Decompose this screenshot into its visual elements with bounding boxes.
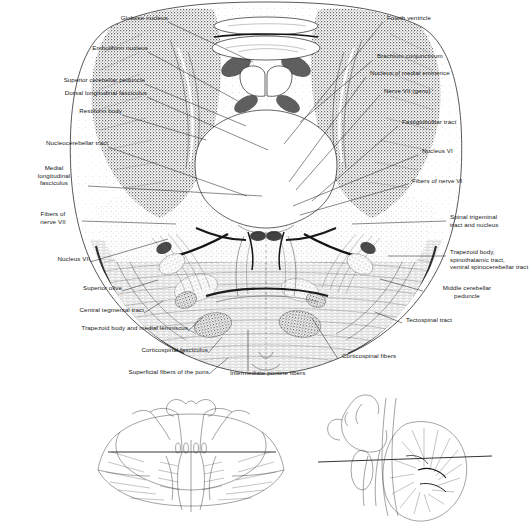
label-fastigiobulbar-tract: Fastigiobulbar tract [402, 118, 502, 126]
label-tectospinal-tract: Tectospinal tract [406, 316, 486, 324]
label-central-tegmental-tract: Central tegmental tract [46, 306, 144, 314]
inset-midsagittal-brainstem [318, 395, 492, 521]
label-nucleocerebellar-tract: Nucleocerebellar tract [10, 139, 108, 147]
anatomical-plate: Globose nucleus Emboliform nucleus Super… [0, 0, 532, 523]
label-spinal-trigeminal-tract-and-nucleus: Spinal trigeminal tract and nucleus [450, 213, 532, 228]
label-restiform-body: Restiform body [52, 107, 122, 115]
label-trapezoid-body-spinothalamic-ventral-spinocerebellar: Trapezoid body, spinothalamic tract, ven… [450, 248, 532, 271]
label-trapezoid-body-and-medial-lemniscus: Trapezoid body and medial lemniscus [38, 324, 188, 332]
inset-dorsal-brainstem [98, 400, 284, 513]
label-nerve-vii-genu: Nerve VII (genu) [384, 87, 480, 95]
label-middle-cerebellar-peduncle: Middle cerebellar peduncle [427, 284, 507, 299]
label-fourth-ventricle: Fourth ventricle [387, 14, 477, 22]
label-corticospinal-fasciculus: Corticospinal fasciculus [110, 346, 208, 354]
label-nucleus-vii: Nucleus VII [36, 255, 90, 263]
label-superior-cerebellar-peduncle: Superior cerebellar peduncle [23, 76, 145, 84]
label-brachium-conjunctivum: Brachium conjunctivum [377, 52, 487, 60]
label-nucleus-of-medial-eminence: Nucleus of medial eminence [370, 69, 498, 77]
label-superior-olive: Superior olive [60, 284, 122, 292]
label-emboliform-nucleus: Emboliform nucleus [38, 44, 148, 52]
label-corticospinal-fibers: Corticospinal fibers [342, 352, 432, 360]
label-medial-longitudinal-fasciculus: Medial longitudinal fasciculus [20, 164, 88, 187]
label-nucleus-vi: Nucleus VI [422, 147, 488, 155]
label-dorsal-longitudinal-fasciculus: Dorsal longitudinal fasciculus [25, 89, 147, 97]
label-intermediate-pontine-fibers: Intermediate pontine fibers [230, 369, 350, 377]
label-globose-nucleus: Globose nucleus [58, 14, 168, 22]
label-fibers-of-nerve-vi: Fibers of nerve VI [412, 177, 508, 185]
label-superficial-fibers-of-the-pons: Superficial fibers of the pons [90, 368, 209, 376]
label-fibers-of-nerve-vii: Fibers of nerve VII [24, 210, 82, 225]
